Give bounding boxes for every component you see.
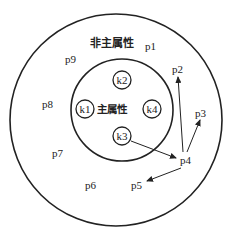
point-p1: p1 — [145, 40, 156, 52]
attribute-diagram: 非主属性 主属性 k1 k2 k3 k4 p1 p2 p3 p4 p5 p6 p… — [0, 0, 228, 241]
arrow-p4-to-p5 — [147, 168, 181, 181]
key-node-k1: k1 — [76, 100, 94, 118]
svg-text:k2: k2 — [117, 74, 128, 86]
arrow-k3-to-p4 — [131, 141, 176, 158]
point-p2: p2 — [172, 63, 183, 75]
point-p8: p8 — [42, 98, 54, 110]
point-p9: p9 — [65, 53, 77, 65]
key-node-k3: k3 — [113, 127, 131, 145]
point-p4: p4 — [180, 154, 192, 166]
svg-text:k4: k4 — [147, 103, 159, 115]
point-p6: p6 — [85, 179, 97, 191]
arrow-p4-to-p3 — [187, 120, 200, 152]
point-p7: p7 — [52, 147, 64, 159]
svg-text:k1: k1 — [80, 103, 91, 115]
arrow-p4-to-p2 — [178, 77, 183, 152]
outer-label: 非主属性 — [90, 36, 134, 50]
key-node-k4: k4 — [143, 100, 161, 118]
point-p5: p5 — [131, 179, 143, 191]
svg-text:k3: k3 — [117, 130, 129, 142]
point-p3: p3 — [195, 107, 207, 119]
inner-label: 主属性 — [97, 103, 128, 115]
key-node-k2: k2 — [113, 71, 131, 89]
